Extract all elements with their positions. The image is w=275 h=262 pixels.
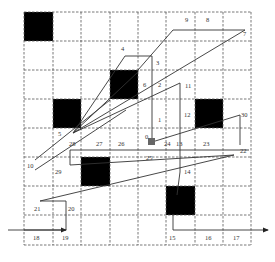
waypoint-label: 25 <box>146 154 153 161</box>
waypoint-label: 2 <box>158 81 161 88</box>
waypoint-label: 18 <box>33 234 40 241</box>
waypoint-label: 8 <box>206 16 209 23</box>
waypoint-label: 24 <box>164 140 171 147</box>
trajectory-exit <box>173 215 268 230</box>
waypoint-label: 13 <box>176 140 183 147</box>
waypoint-label: 10 <box>27 162 34 169</box>
start-marker <box>148 138 155 145</box>
waypoint-label: 20 <box>68 205 75 212</box>
waypoint-label: 27 <box>96 140 103 147</box>
waypoint-label: 29 <box>55 168 62 175</box>
waypoint-label: 14 <box>184 168 191 175</box>
waypoint-label: 1 <box>158 116 161 123</box>
waypoint-label: 0 <box>145 133 148 140</box>
waypoint-label: 28 <box>69 140 76 147</box>
trajectory-lower <box>24 150 249 230</box>
waypoint-label: 26 <box>118 140 125 147</box>
waypoint-label: 19 <box>62 234 69 241</box>
waypoint-label: 17 <box>233 234 240 241</box>
waypoint-label: 16 <box>205 234 212 241</box>
waypoint-label: 30 <box>241 111 248 118</box>
obstacle-cell <box>24 12 53 41</box>
obstacle-cell <box>81 157 110 186</box>
obstacle-cell <box>166 186 195 215</box>
waypoint-label: 4 <box>121 45 125 52</box>
obstacle-cells <box>24 12 223 215</box>
waypoint-label: 22 <box>240 147 247 154</box>
obstacle-cell <box>53 99 81 128</box>
obstacle-cell <box>195 99 223 128</box>
waypoint-labels: 0123456789101112131415161718192021222324… <box>27 16 248 241</box>
waypoint-label: 6 <box>143 81 147 88</box>
waypoint-label: 23 <box>203 140 210 147</box>
waypoint-label: 11 <box>185 82 191 89</box>
waypoint-label: 12 <box>184 111 191 118</box>
waypoint-label: 21 <box>34 205 41 212</box>
waypoint-label: 7 <box>243 30 247 37</box>
waypoint-label: 3 <box>156 59 159 66</box>
waypoint-label: 15 <box>169 234 176 241</box>
waypoint-label: 9 <box>185 16 188 23</box>
waypoint-label: 5 <box>58 130 61 137</box>
coverage-path-diagram: 0123456789101112131415161718192021222324… <box>0 0 275 262</box>
